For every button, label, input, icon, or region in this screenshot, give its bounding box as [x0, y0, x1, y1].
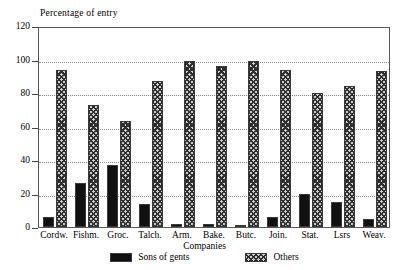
y-tick-label: 100 [4, 56, 30, 66]
bar-others [376, 71, 387, 227]
y-axis-title: Percentage of entry [40, 8, 118, 18]
y-tick-mark [32, 228, 38, 229]
x-tick-label: Fishm. [70, 230, 102, 240]
bar-others [184, 61, 195, 227]
x-tick-label: Weav. [358, 230, 390, 240]
legend-label: Sons of gents [138, 252, 189, 262]
bar-group [327, 28, 359, 227]
bar-group [231, 28, 263, 227]
bar-chart: Percentage of entry 020406080100120 Cord… [0, 0, 409, 270]
x-tick-label: Join. [262, 230, 294, 240]
bar-sons-of-gents [331, 202, 342, 227]
bar-others [152, 81, 163, 227]
bar-group [263, 28, 295, 227]
x-tick-label: Cordw. [38, 230, 70, 240]
legend-swatch-icon [110, 253, 132, 262]
y-tick-label: 20 [4, 190, 30, 200]
y-tick-label: 60 [4, 123, 30, 133]
x-tick-label: Talch. [134, 230, 166, 240]
bar-others [56, 70, 67, 227]
x-tick-label: Stat. [294, 230, 326, 240]
y-tick-label: 0 [4, 223, 30, 233]
y-tick-label: 120 [4, 22, 30, 32]
plot-area [38, 27, 390, 228]
bar-others [216, 66, 227, 227]
bar-sons-of-gents [203, 224, 214, 227]
x-tick-label: Arm. [166, 230, 198, 240]
bar-sons-of-gents [75, 183, 86, 227]
x-tick-label: Bake. [198, 230, 230, 240]
bar-others [88, 105, 99, 227]
x-tick-label: Groc. [102, 230, 134, 240]
x-tick-label: Lsrs [326, 230, 358, 240]
bar-groups [39, 28, 389, 227]
bar-others [280, 70, 291, 227]
bar-sons-of-gents [235, 225, 246, 227]
bar-group [103, 28, 135, 227]
bar-others [344, 86, 355, 227]
bar-group [135, 28, 167, 227]
x-tick-label: Butc. [230, 230, 262, 240]
bar-group [39, 28, 71, 227]
legend-item-sons-of-gents: Sons of gents [110, 252, 189, 262]
y-tick-label: 40 [4, 156, 30, 166]
bar-sons-of-gents [299, 194, 310, 228]
bar-sons-of-gents [107, 165, 118, 227]
bar-sons-of-gents [363, 219, 374, 227]
bar-sons-of-gents [43, 217, 54, 227]
legend: Sons of gents Others [0, 252, 409, 262]
bar-others [248, 61, 259, 227]
bar-others [312, 93, 323, 227]
legend-item-others: Others [245, 252, 298, 262]
bar-sons-of-gents [171, 224, 182, 227]
bar-group [295, 28, 327, 227]
bar-sons-of-gents [139, 204, 150, 227]
bar-group [167, 28, 199, 227]
legend-label: Others [273, 252, 298, 262]
bar-group [199, 28, 231, 227]
y-tick-label: 80 [4, 89, 30, 99]
bar-group [71, 28, 103, 227]
bar-group [359, 28, 391, 227]
legend-swatch-icon [245, 253, 267, 262]
x-axis-title: Companies [0, 241, 409, 251]
bar-sons-of-gents [267, 217, 278, 227]
bar-others [120, 121, 131, 227]
